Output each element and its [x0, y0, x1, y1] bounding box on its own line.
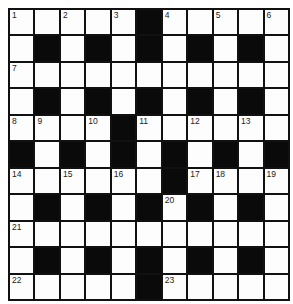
grid-cell[interactable] — [35, 63, 58, 87]
grid-cell[interactable] — [163, 116, 186, 140]
grid-cell[interactable] — [239, 10, 262, 34]
grid-cell[interactable] — [239, 275, 262, 299]
grid-cell[interactable]: 6 — [265, 10, 288, 34]
grid-cell[interactable]: 13 — [239, 116, 262, 140]
grid-cell[interactable] — [163, 89, 186, 113]
grid-cell[interactable]: 7 — [10, 63, 33, 87]
grid-cell[interactable] — [10, 89, 33, 113]
grid-cell[interactable] — [112, 63, 135, 87]
grid-cell[interactable] — [214, 248, 237, 272]
grid-cell[interactable] — [188, 222, 211, 246]
grid-cell[interactable] — [10, 36, 33, 60]
grid-cell[interactable] — [35, 222, 58, 246]
grid-cell[interactable] — [86, 222, 109, 246]
grid-cell[interactable]: 19 — [265, 169, 288, 193]
grid-cell[interactable] — [239, 169, 262, 193]
grid-cell[interactable] — [137, 169, 160, 193]
grid-cell[interactable] — [265, 89, 288, 113]
grid-cell[interactable] — [265, 275, 288, 299]
grid-cell[interactable]: 16 — [112, 169, 135, 193]
grid-cell[interactable] — [86, 275, 109, 299]
grid-cell[interactable]: 22 — [10, 275, 33, 299]
grid-cell[interactable] — [188, 10, 211, 34]
grid-cell[interactable] — [188, 63, 211, 87]
grid-cell[interactable] — [214, 275, 237, 299]
black-square — [239, 195, 262, 219]
grid-cell[interactable]: 14 — [10, 169, 33, 193]
grid-cell[interactable] — [35, 275, 58, 299]
grid-cell[interactable] — [10, 195, 33, 219]
grid-cell[interactable] — [61, 248, 84, 272]
grid-cell[interactable] — [265, 195, 288, 219]
grid-cell[interactable] — [239, 142, 262, 166]
grid-cell[interactable] — [163, 36, 186, 60]
grid-cell[interactable] — [112, 36, 135, 60]
grid-cell[interactable]: 11 — [137, 116, 160, 140]
grid-cell[interactable] — [265, 222, 288, 246]
grid-cell[interactable] — [112, 248, 135, 272]
grid-cell[interactable] — [86, 169, 109, 193]
grid-cell[interactable] — [214, 116, 237, 140]
grid-cell[interactable]: 9 — [35, 116, 58, 140]
grid-cell[interactable] — [137, 142, 160, 166]
grid-cell[interactable] — [188, 142, 211, 166]
grid-cell[interactable] — [61, 195, 84, 219]
grid-cell[interactable] — [86, 10, 109, 34]
grid-cell[interactable] — [61, 63, 84, 87]
grid-cell[interactable]: 21 — [10, 222, 33, 246]
grid-cell[interactable] — [239, 222, 262, 246]
grid-cell[interactable]: 12 — [188, 116, 211, 140]
grid-cell[interactable] — [35, 169, 58, 193]
grid-cell[interactable] — [239, 63, 262, 87]
grid-cell[interactable] — [214, 195, 237, 219]
grid-cell[interactable]: 2 — [61, 10, 84, 34]
grid-cell[interactable] — [112, 275, 135, 299]
grid-cell[interactable] — [137, 63, 160, 87]
grid-cell[interactable] — [265, 36, 288, 60]
grid-cell[interactable] — [163, 222, 186, 246]
clue-number: 19 — [267, 170, 276, 179]
grid-cell[interactable] — [61, 116, 84, 140]
grid-cell[interactable] — [214, 36, 237, 60]
grid-cell[interactable] — [188, 275, 211, 299]
grid-cell[interactable] — [214, 222, 237, 246]
grid-cell[interactable] — [163, 63, 186, 87]
grid-cell[interactable] — [35, 10, 58, 34]
clue-number: 14 — [12, 170, 21, 179]
grid-cell[interactable] — [112, 89, 135, 113]
grid-cell[interactable] — [137, 222, 160, 246]
grid-cell[interactable]: 4 — [163, 10, 186, 34]
grid-cell[interactable] — [163, 248, 186, 272]
grid-cell[interactable] — [265, 116, 288, 140]
grid-cell[interactable] — [214, 63, 237, 87]
grid-cell[interactable]: 3 — [112, 10, 135, 34]
grid-cell[interactable]: 1 — [10, 10, 33, 34]
grid-cell[interactable] — [61, 222, 84, 246]
grid-cell[interactable] — [112, 222, 135, 246]
black-square — [35, 195, 58, 219]
grid-cell[interactable]: 17 — [188, 169, 211, 193]
clue-number: 22 — [12, 276, 21, 285]
grid-cell[interactable]: 20 — [163, 195, 186, 219]
grid-cell[interactable] — [86, 63, 109, 87]
black-square — [137, 89, 160, 113]
clue-number: 16 — [114, 170, 123, 179]
grid-cell[interactable]: 23 — [163, 275, 186, 299]
grid-cell[interactable] — [265, 63, 288, 87]
grid-cell[interactable] — [35, 142, 58, 166]
grid-cell[interactable]: 18 — [214, 169, 237, 193]
grid-cell[interactable] — [86, 142, 109, 166]
grid-cell[interactable]: 8 — [10, 116, 33, 140]
clue-number: 3 — [114, 11, 119, 20]
grid-cell[interactable] — [214, 89, 237, 113]
grid-cell[interactable] — [61, 36, 84, 60]
grid-cell[interactable]: 15 — [61, 169, 84, 193]
grid-cell[interactable]: 10 — [86, 116, 109, 140]
grid-cell[interactable] — [10, 248, 33, 272]
grid-cell[interactable] — [112, 195, 135, 219]
grid-cell[interactable] — [265, 248, 288, 272]
grid-cell[interactable]: 5 — [214, 10, 237, 34]
grid-cell[interactable] — [61, 89, 84, 113]
black-square — [61, 142, 84, 166]
grid-cell[interactable] — [61, 275, 84, 299]
